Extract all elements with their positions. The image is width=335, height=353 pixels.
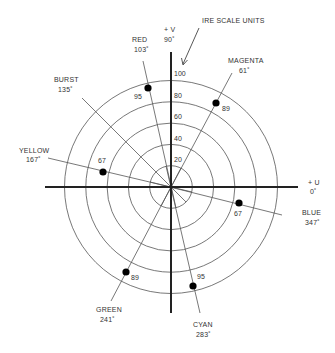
burst-angle: 135˚	[58, 86, 73, 93]
magenta-magnitude: 89	[222, 105, 230, 112]
magenta-label: MAGENTA	[228, 57, 264, 64]
scale-label-100: 100	[174, 70, 186, 77]
magenta-angle: 61˚	[239, 67, 250, 74]
cyan-magnitude: 95	[197, 273, 205, 280]
scale-label-60: 60	[174, 113, 182, 120]
scale-labels: 100 80 60 40 20	[174, 70, 186, 163]
v-axis-angle: 90˚	[164, 36, 175, 43]
yellow-label: YELLOW	[19, 147, 50, 154]
cyan-target-dot	[189, 282, 196, 289]
ire-scale-annotation: IRE SCALE UNITS	[202, 17, 265, 24]
cyan-label: CYAN	[193, 321, 213, 328]
blue-angle: 347˚	[305, 219, 320, 226]
u-axis-label: + U	[308, 179, 320, 186]
annotation-arrow-icon	[182, 28, 200, 65]
u-axis-angle: 0˚	[310, 188, 317, 195]
red-angle: 103˚	[134, 46, 149, 53]
blue-label: BLUE	[302, 209, 321, 216]
scale-label-40: 40	[174, 135, 182, 142]
vectorscope-diagram: 100 80 60 40 20 IRE SCALE UNITS + V 90˚ …	[0, 0, 335, 353]
cyan-angle: 283˚	[196, 331, 211, 338]
blue-target-dot	[235, 199, 242, 206]
scale-label-20: 20	[174, 156, 182, 163]
yellow-angle: 167˚	[26, 156, 41, 163]
green-target-dot	[122, 268, 129, 275]
blue-magnitude: 67	[234, 210, 242, 217]
scale-label-80: 80	[174, 92, 182, 99]
red-magnitude: 95	[134, 93, 142, 100]
yellow-magnitude: 67	[98, 157, 106, 164]
green-label: GREEN	[96, 306, 122, 313]
magenta-target-dot	[212, 99, 219, 106]
green-angle: 241˚	[100, 316, 115, 323]
red-target-dot	[144, 84, 151, 91]
green-magnitude: 89	[131, 274, 139, 281]
burst-label: BURST	[54, 76, 79, 83]
v-axis-label: + V	[164, 26, 175, 33]
yellow-target-dot	[99, 168, 106, 175]
red-label: RED	[132, 36, 147, 43]
